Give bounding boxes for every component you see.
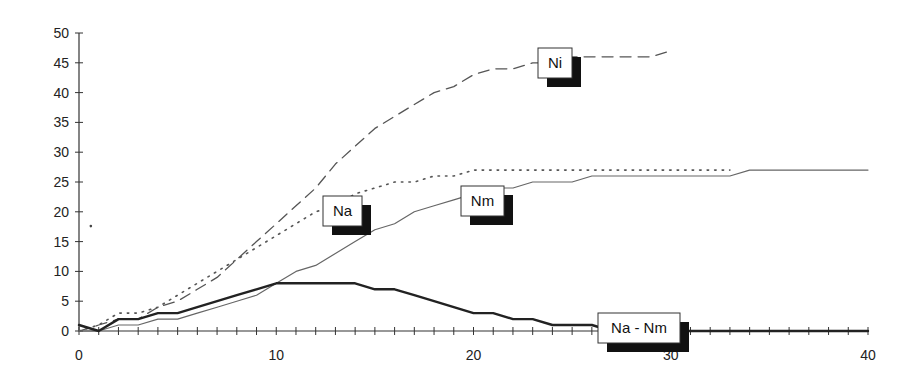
y-tick-label: 0	[61, 323, 69, 339]
y-tick-label: 25	[53, 174, 69, 190]
series-label-nm: Nm	[461, 186, 513, 225]
label-text: Nm	[471, 192, 494, 209]
series-na-nm-line	[79, 283, 868, 331]
series-na-line	[79, 170, 730, 331]
y-axis: 05101520253035404550	[53, 25, 83, 339]
series-labels: NiNaNmNa - Nm	[323, 48, 689, 352]
y-tick-label: 40	[53, 85, 69, 101]
stray-dot-mark	[90, 225, 93, 228]
y-tick-label: 20	[53, 204, 69, 220]
label-text: Na	[333, 202, 353, 219]
y-tick-label: 35	[53, 114, 69, 130]
x-axis: 010203040	[75, 327, 876, 363]
x-tick-label: 10	[268, 347, 284, 363]
y-tick-label: 50	[53, 25, 69, 41]
y-tick-label: 30	[53, 144, 69, 160]
y-tick-label: 15	[53, 234, 69, 250]
label-text: Na - Nm	[611, 319, 667, 336]
label-text: Ni	[548, 54, 562, 71]
line-chart: 05101520253035404550 010203040 NiNaNmNa …	[0, 0, 922, 390]
series-label-ni: Ni	[538, 48, 581, 87]
y-tick-label: 5	[61, 293, 69, 309]
y-tick-label: 45	[53, 55, 69, 71]
series-label-na: Na	[323, 196, 371, 235]
x-tick-label: 0	[75, 347, 83, 363]
series-label-na-nm: Na - Nm	[598, 313, 689, 352]
y-tick-label: 10	[53, 263, 69, 279]
x-tick-label: 20	[466, 347, 482, 363]
x-tick-label: 40	[860, 347, 876, 363]
annotation-layer	[90, 225, 93, 228]
